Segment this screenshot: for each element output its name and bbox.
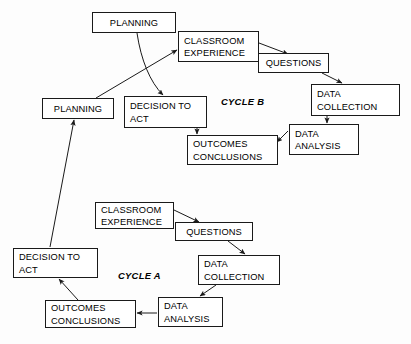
node-classroom-experience-a[interactable]: CLASSROOM EXPERIENCE xyxy=(95,202,174,229)
node-planning-left[interactable]: PLANNING xyxy=(42,98,114,119)
cycle-label-cycle-a: CYCLE A xyxy=(118,270,161,281)
node-questions-b[interactable]: QUESTIONS xyxy=(258,53,329,73)
node-data-collection-b[interactable]: DATA COLLECTION xyxy=(311,84,400,116)
edge-classroom-a-to-questions-a xyxy=(174,210,199,222)
edge-planning-left-to-classroom-b xyxy=(96,50,177,98)
node-data-analysis-b[interactable]: DATA ANALYSIS xyxy=(289,124,359,155)
edge-questions-a-to-data-collection-a xyxy=(228,241,245,254)
diagram-canvas: PLANNINGCLASSROOM EXPERIENCEQUESTIONSDAT… xyxy=(0,0,411,344)
node-planning-top[interactable]: PLANNING xyxy=(92,12,176,33)
edge-data-collection-a-to-analysis-a xyxy=(200,285,216,296)
node-classroom-experience-b[interactable]: CLASSROOM EXPERIENCE xyxy=(178,31,259,62)
cycle-label-cycle-b: CYCLE B xyxy=(221,96,264,107)
edge-planning-top-to-decision-b xyxy=(137,33,163,95)
node-outcomes-conclusions-a[interactable]: OUTCOMES CONCLUSIONS xyxy=(45,300,136,328)
edge-questions-b-to-data-collection-b xyxy=(322,73,342,83)
edge-outcomes-a-to-decision-a xyxy=(59,279,78,300)
node-questions-a[interactable]: QUESTIONS xyxy=(175,222,253,241)
node-decision-to-act-a[interactable]: DECISION TO ACT xyxy=(13,248,98,278)
node-decision-to-act-b[interactable]: DECISION TO ACT xyxy=(124,96,207,128)
node-data-collection-a[interactable]: DATA COLLECTION xyxy=(198,255,280,285)
edge-analysis-b-to-outcomes-b xyxy=(277,131,288,142)
node-outcomes-conclusions-b[interactable]: OUTCOMES CONCLUSIONS xyxy=(187,135,278,165)
edge-decision-a-to-planning-left xyxy=(50,120,74,247)
node-data-analysis-a[interactable]: DATA ANALYSIS xyxy=(158,297,223,327)
